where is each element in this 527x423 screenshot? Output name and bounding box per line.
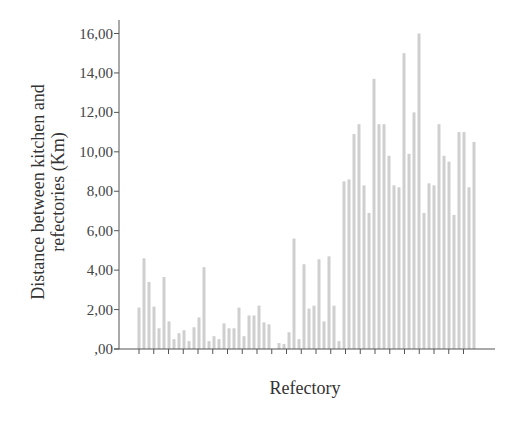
- y-tick-label: ,00: [94, 341, 113, 357]
- bar-chart: ,002,004,006,008,0010,0012,0014,0016,00 …: [0, 0, 527, 423]
- bar: [333, 306, 336, 349]
- y-axis-title-line-1: Distance between kitchen and: [28, 84, 48, 299]
- bar: [168, 321, 171, 349]
- bar: [368, 213, 371, 349]
- bar: [313, 306, 316, 349]
- x-axis-title: Refectory: [270, 378, 341, 398]
- y-tick-label: 16,00: [79, 26, 113, 42]
- bar: [288, 332, 291, 349]
- bar: [388, 156, 391, 349]
- y-tick-label: 10,00: [79, 144, 113, 160]
- bar: [203, 267, 206, 349]
- bar: [228, 328, 231, 349]
- bar: [418, 34, 421, 350]
- bar: [153, 307, 156, 349]
- y-tick-label: 12,00: [79, 104, 113, 120]
- bar: [343, 181, 346, 349]
- bar: [358, 124, 361, 349]
- bar: [353, 134, 356, 349]
- bar: [318, 259, 321, 349]
- bar: [323, 321, 326, 349]
- bar: [433, 185, 436, 349]
- bar: [298, 339, 301, 349]
- bar: [338, 341, 341, 349]
- bar: [458, 132, 461, 349]
- bar: [443, 156, 446, 349]
- bar: [408, 154, 411, 349]
- bar: [438, 124, 441, 349]
- bar: [213, 336, 216, 349]
- bar: [198, 317, 201, 349]
- bar: [278, 343, 281, 349]
- y-axis-title-line-2: refectories (Km): [48, 132, 69, 251]
- bar: [188, 341, 191, 349]
- bar: [308, 309, 311, 349]
- bar: [398, 187, 401, 349]
- bar: [148, 282, 151, 349]
- bar: [283, 344, 286, 349]
- bar: [363, 185, 366, 349]
- bar: [448, 162, 451, 349]
- bar: [423, 213, 426, 349]
- bar: [233, 328, 236, 349]
- y-tick-label: 2,00: [87, 302, 113, 318]
- bar: [163, 277, 166, 349]
- x-axis: [114, 349, 495, 354]
- bar: [328, 256, 331, 349]
- y-tick-label: 14,00: [79, 65, 113, 81]
- bar: [218, 339, 221, 349]
- bar: [243, 336, 246, 349]
- bar: [268, 324, 271, 349]
- bar: [303, 264, 306, 349]
- bar: [263, 322, 266, 349]
- y-axis: ,002,004,006,008,0010,0012,0014,0016,00: [79, 20, 119, 357]
- bar: [253, 315, 256, 349]
- bar: [378, 124, 381, 349]
- bar: [183, 330, 186, 349]
- bar: [158, 328, 161, 349]
- bars-group: [138, 34, 476, 350]
- bar: [208, 341, 211, 349]
- bar: [373, 79, 376, 349]
- bar: [173, 339, 176, 349]
- bar: [403, 53, 406, 349]
- bar: [248, 315, 251, 349]
- bar: [348, 179, 351, 349]
- y-tick-label: 4,00: [87, 262, 113, 278]
- bar: [468, 187, 471, 349]
- bar: [393, 185, 396, 349]
- y-axis-title: Distance between kitchen and refectories…: [28, 84, 69, 299]
- bar: [258, 306, 261, 349]
- bar: [413, 112, 416, 349]
- bar: [143, 258, 146, 349]
- bar: [383, 124, 386, 349]
- bar: [453, 215, 456, 349]
- bar: [238, 308, 241, 349]
- bar: [193, 327, 196, 349]
- bar: [428, 183, 431, 349]
- bar: [293, 239, 296, 349]
- bar: [223, 323, 226, 349]
- bar: [178, 333, 181, 349]
- y-tick-label: 8,00: [87, 183, 113, 199]
- bar: [463, 132, 466, 349]
- y-tick-label: 6,00: [87, 223, 113, 239]
- bar: [138, 308, 141, 349]
- bar: [473, 142, 476, 349]
